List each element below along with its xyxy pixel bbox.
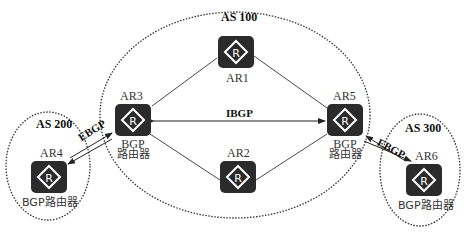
ibgp-label: IBGP: [226, 107, 253, 119]
ar6-name: AR6: [415, 150, 438, 162]
router-icon: R: [218, 36, 254, 68]
ar4-role: BGP路由器: [22, 197, 78, 209]
as100-label: AS 100: [221, 10, 257, 25]
link-ar3-ar1: [152, 58, 217, 106]
router-ar2[interactable]: R: [220, 161, 256, 193]
router-icon: R: [31, 161, 67, 193]
router-icon: R: [327, 104, 363, 136]
ebgp-left-arrow-down: [68, 139, 112, 164]
link-ar3-ar2: [150, 134, 220, 180]
ar6-role: BGP路由器: [398, 200, 454, 212]
ar4-name: AR4: [40, 147, 63, 159]
svg-text:R: R: [420, 175, 428, 188]
ar3-role-line2: 路由器: [113, 149, 153, 161]
link-ar1-ar5: [254, 56, 327, 108]
router-icon: R: [406, 164, 442, 196]
router-ar5[interactable]: R: [327, 104, 363, 136]
router-ar6[interactable]: R: [406, 164, 442, 196]
router-ar3[interactable]: R: [115, 104, 151, 136]
svg-text:R: R: [45, 172, 53, 185]
router-icon: R: [115, 104, 151, 136]
as200-label: AS 200: [36, 117, 72, 132]
router-ar1[interactable]: R: [218, 36, 254, 68]
ar2-name: AR2: [227, 147, 250, 159]
link-ar2-ar5: [256, 134, 327, 180]
svg-text:R: R: [234, 172, 242, 185]
svg-text:R: R: [341, 115, 349, 128]
ar5-role-line2: 路由器: [325, 149, 365, 161]
ar5-name: AR5: [333, 90, 356, 102]
as300-label: AS 300: [405, 121, 441, 136]
ar1-name: AR1: [226, 72, 249, 84]
svg-text:R: R: [129, 115, 137, 128]
ar3-name: AR3: [120, 90, 143, 102]
svg-text:R: R: [232, 47, 240, 60]
router-icon: R: [220, 161, 256, 193]
router-ar4[interactable]: R: [31, 161, 67, 193]
